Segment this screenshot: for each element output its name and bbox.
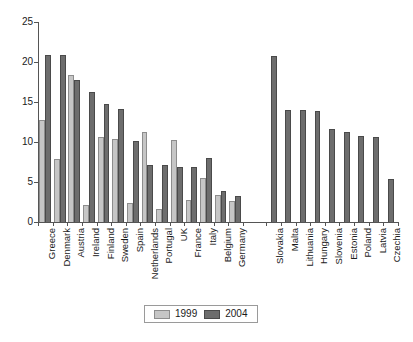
bar-2004: [191, 167, 197, 222]
bar-2004: [373, 137, 379, 222]
x-axis-tick: [126, 222, 127, 226]
y-axis-tick-label: 20: [22, 57, 33, 67]
bar-chart: 0510152025 GreeceDenmarkAustriaIrelandFi…: [0, 0, 413, 342]
bar-2004: [147, 165, 153, 222]
x-axis-tick: [339, 222, 340, 226]
bar-2004: [221, 191, 227, 222]
x-axis-tick: [369, 222, 370, 226]
bar-2004: [45, 55, 51, 222]
bar-2004: [118, 109, 124, 222]
x-axis-label: UK: [179, 228, 189, 241]
x-axis-tick: [38, 222, 39, 226]
chart-legend: 1999 2004: [144, 305, 258, 323]
x-axis-label: Italy: [208, 228, 218, 245]
x-axis-label: Belgium: [223, 228, 233, 262]
x-axis-label: Slovenia: [334, 228, 344, 264]
x-axis-label: Germany: [237, 228, 247, 267]
x-axis-label: Czechia: [392, 228, 402, 262]
x-axis-tick: [155, 222, 156, 226]
bar-2004: [315, 111, 321, 222]
x-axis-label: Slovakia: [275, 228, 285, 264]
bar-2004: [235, 196, 241, 222]
bar-2004: [74, 80, 80, 222]
x-axis-label: Sweden: [120, 228, 130, 262]
y-axis-tick-label: 5: [27, 177, 33, 187]
x-axis-label: Finland: [106, 228, 116, 259]
legend-swatch-2004-icon: [204, 310, 220, 319]
x-axis-tick: [67, 222, 68, 226]
legend-swatch-1999-icon: [154, 310, 170, 319]
x-axis-tick: [281, 222, 282, 226]
y-axis-tick-label: 15: [22, 97, 33, 107]
bar-2004: [89, 92, 95, 222]
bar-2004: [60, 55, 66, 222]
bar-2004: [358, 136, 364, 222]
x-axis-label: Lithuania: [305, 228, 315, 267]
bar-2004: [300, 110, 306, 222]
x-axis-ticks: [38, 222, 398, 226]
x-axis-label: Hungary: [319, 228, 329, 264]
x-axis-label: Denmark: [62, 228, 72, 267]
x-axis-tick: [140, 222, 141, 226]
bar-2004: [206, 158, 212, 222]
x-axis-tick: [228, 222, 229, 226]
x-axis-tick: [383, 222, 384, 226]
x-axis-label: Netherlands: [150, 228, 160, 279]
x-axis-tick: [243, 222, 244, 226]
x-axis-label: Latvia: [378, 228, 388, 253]
x-axis-tick: [97, 222, 98, 226]
x-axis-label: France: [193, 228, 203, 258]
bar-2004: [329, 129, 335, 222]
x-axis-tick: [398, 222, 399, 226]
x-axis-label: Austria: [76, 228, 86, 258]
x-axis-label: Poland: [363, 228, 373, 258]
x-axis-label: Portugal: [164, 228, 174, 263]
bar-2004: [285, 110, 291, 222]
x-axis-label: Greece: [47, 228, 57, 259]
x-axis-tick: [310, 222, 311, 226]
x-axis-tick: [214, 222, 215, 226]
bar-2004: [162, 165, 168, 222]
x-axis-tick: [53, 222, 54, 226]
x-axis-label: Spain: [135, 228, 145, 252]
x-axis-tick: [325, 222, 326, 226]
legend-label-1999: 1999: [175, 309, 197, 319]
bar-2004: [271, 56, 277, 222]
x-axis-tick: [199, 222, 200, 226]
legend-entry-1999: 1999: [154, 309, 197, 319]
bars-layer: [38, 22, 398, 222]
x-axis-tick: [111, 222, 112, 226]
legend-label-2004: 2004: [225, 309, 247, 319]
x-axis-label: Ireland: [91, 228, 101, 257]
bar-2004: [104, 104, 110, 222]
x-axis-tick: [354, 222, 355, 226]
x-axis-tick: [82, 222, 83, 226]
bar-2004: [177, 167, 183, 222]
x-axis-tick: [296, 222, 297, 226]
bar-2004: [344, 132, 350, 222]
x-axis-tick: [266, 222, 267, 226]
legend-entry-2004: 2004: [204, 309, 247, 319]
x-axis-label: Estonia: [349, 228, 359, 260]
bar-2004: [388, 179, 394, 222]
y-axis-tick-label: 25: [22, 17, 33, 27]
x-axis-labels: GreeceDenmarkAustriaIrelandFinlandSweden…: [38, 228, 398, 290]
x-axis-tick: [170, 222, 171, 226]
x-axis-label: Malta: [290, 228, 300, 251]
y-axis-tick-label: 10: [22, 137, 33, 147]
y-axis-tick-label: 0: [27, 217, 33, 227]
bar-2004: [133, 141, 139, 222]
x-axis-tick: [184, 222, 185, 226]
